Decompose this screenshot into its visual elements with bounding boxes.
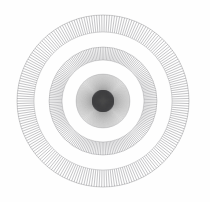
figure-canvas — [0, 0, 210, 202]
radial-pattern-svg — [0, 0, 210, 202]
